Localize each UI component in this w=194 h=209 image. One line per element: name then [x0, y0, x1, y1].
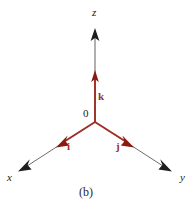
y-axis-label: y	[180, 172, 185, 183]
unit-vector-shafts	[62, 76, 128, 143]
j-vector-label: j	[116, 141, 120, 152]
j-vector-arrowhead	[121, 136, 134, 148]
coordinate-axes-graphic	[0, 0, 194, 209]
j-vector-shaft	[95, 122, 128, 143]
k-vector-label: k	[98, 91, 104, 102]
x-axis-label: x	[7, 172, 12, 183]
z-axis-label: z	[92, 7, 96, 18]
figure-caption: (b)	[79, 186, 93, 198]
vector-diagram-figure: z x y k i j 0 (b)	[0, 0, 194, 209]
origin-label: 0	[83, 108, 89, 119]
y-axis-arrowhead	[158, 159, 172, 171]
x-axis-arrowhead	[18, 159, 32, 171]
i-vector-label: i	[67, 141, 70, 152]
